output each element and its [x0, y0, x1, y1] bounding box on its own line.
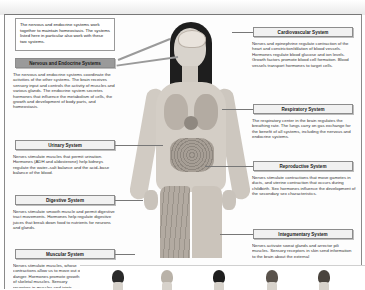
- cardiovascular-body: Nerves and epinephrine regulate contract…: [252, 41, 356, 68]
- urinary-leader-line: [115, 145, 163, 146]
- face-woman-profile: [213, 270, 225, 289]
- face-shoulders: [113, 282, 123, 290]
- intro-box: The nervous and endocrine systems work t…: [15, 18, 115, 51]
- respiratory-body: The respiratory center in the brain regu…: [252, 118, 356, 140]
- face-shoulders: [319, 282, 329, 290]
- face-man-profile: [318, 270, 330, 289]
- right-hand-shape: [222, 190, 236, 210]
- cardiovascular-leader-line: [232, 32, 253, 33]
- muscular-body: Nerves stimulate muscles, whose contract…: [13, 263, 83, 288]
- reproductive-header: Reproductive System: [253, 161, 353, 171]
- human-body-illustration: [118, 18, 248, 256]
- reproductive-leader-line: [205, 166, 253, 167]
- brain-shape: [178, 30, 206, 48]
- respiratory-header: Respiratory System: [253, 104, 353, 114]
- heart-shape: [184, 116, 198, 130]
- urinary-header: Urinary System: [15, 140, 115, 150]
- cardiovascular-header: Cardiovascular System: [253, 27, 353, 37]
- urinary-body: Nerves stimulate muscles that permit uri…: [13, 154, 117, 176]
- face-light-hair-front: [161, 270, 173, 289]
- digestive-leader-line: [115, 200, 143, 201]
- digestive-header: Digestive System: [15, 195, 115, 205]
- face-woman-front: [112, 270, 124, 289]
- muscular-leader-line: [115, 254, 135, 255]
- face-man-three-quarter: [266, 270, 278, 289]
- muscular-header: Muscular System: [15, 249, 115, 259]
- nervous-endocrine-body: The nervous and endocrine systems coordi…: [13, 72, 117, 110]
- intro-text: The nervous and endocrine systems work t…: [20, 22, 110, 44]
- respiratory-leader-line: [222, 109, 253, 110]
- integumentary-header: Integumentary System: [253, 229, 353, 239]
- reproductive-body: Nerves stimulate contractions that move …: [252, 175, 356, 197]
- left-hand-shape: [144, 190, 158, 210]
- bottom-faces-strip: [80, 265, 365, 289]
- face-shoulders: [267, 282, 277, 290]
- left-leg-muscles-shape: [160, 186, 190, 258]
- nervous-endocrine-header: Nervous and Endocrine Systems: [15, 58, 115, 68]
- face-shoulders: [214, 282, 224, 290]
- integumentary-leader-line: [220, 234, 253, 235]
- right-leg-shape: [192, 186, 222, 258]
- face-shoulders: [162, 282, 172, 290]
- page-top-shadow: [0, 0, 365, 15]
- integumentary-body: Nerves activate sweat glands and arrecto…: [252, 243, 356, 263]
- digestive-body: Nerves stimulate smooth muscle and permi…: [13, 209, 117, 231]
